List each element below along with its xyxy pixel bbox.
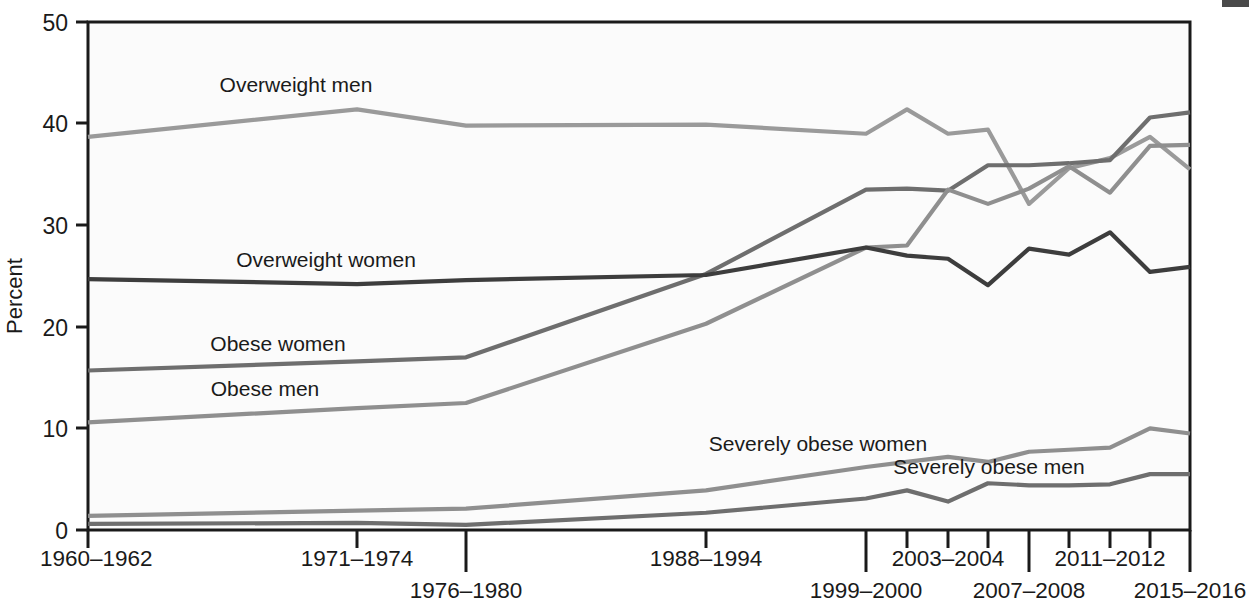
x-label-2011-2012: 2011–2012	[1055, 546, 1166, 571]
line-chart-svg: 50 40 30 20 10 0 Percent 1960–1	[0, 0, 1249, 611]
y-tick-label-0: 0	[55, 518, 68, 544]
scan-artifact	[1222, 0, 1249, 7]
series-label-overweight-women: Overweight women	[236, 248, 416, 271]
x-axis-labels-lower: 1976–1980 1999–2000 2007–2008 2015–2016	[410, 578, 1247, 603]
y-axis-ticks	[76, 22, 88, 530]
x-axis-ticks	[88, 530, 1190, 572]
x-label-1971-1974: 1971–1974	[301, 546, 414, 571]
x-label-1960-1962: 1960–1962	[40, 546, 153, 571]
series-label-overweight-men: Overweight men	[220, 73, 373, 96]
chart-figure: 50 40 30 20 10 0 Percent 1960–1	[0, 0, 1249, 611]
x-label-1988-1994: 1988–1994	[650, 546, 763, 571]
series-label-severely-obese-women: Severely obese women	[709, 432, 927, 455]
x-label-1976-1980: 1976–1980	[410, 578, 523, 603]
x-label-2015-2016: 2015–2016	[1134, 578, 1247, 603]
y-axis-labels: 50 40 30 20 10 0	[42, 10, 68, 544]
y-tick-label-50: 50	[42, 10, 68, 36]
y-tick-label-40: 40	[42, 111, 68, 137]
y-tick-label-10: 10	[42, 416, 68, 442]
y-axis-title: Percent	[2, 258, 27, 334]
x-label-1999-2000: 1999–2000	[810, 578, 923, 603]
x-label-2003-2004: 2003–2004	[892, 546, 1005, 571]
series-label-obese-men: Obese men	[211, 377, 320, 400]
y-tick-label-30: 30	[42, 213, 68, 239]
x-axis-labels-upper: 1960–1962 1971–1974 1988–1994 2003–2004 …	[40, 546, 1165, 571]
series-label-severely-obese-men: Severely obese men	[893, 455, 1084, 478]
x-label-2007-2008: 2007–2008	[973, 578, 1086, 603]
y-tick-label-20: 20	[42, 315, 68, 341]
series-label-obese-women: Obese women	[210, 332, 345, 355]
